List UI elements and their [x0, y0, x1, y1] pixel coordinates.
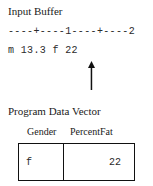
- input-buffer-heading: Input Buffer: [8, 5, 62, 18]
- up-arrow-icon: [86, 61, 97, 90]
- sas-input-buffer-diagram: Input Buffer ----+----1----+----2 m 13.3…: [0, 0, 153, 186]
- pdv-column-header-row: Gender PercentFat: [18, 125, 135, 140]
- input-buffer-content: m 13.3 f 22: [8, 45, 78, 57]
- program-data-vector-heading: Program Data Vector: [8, 105, 101, 118]
- input-buffer-column-ruler: ----+----1----+----2: [8, 26, 135, 38]
- program-data-vector-table: f 22: [18, 143, 135, 181]
- pdv-cell-gender: f: [19, 144, 64, 180]
- pdv-column-header-percentfat: PercentFat: [70, 125, 113, 138]
- pdv-column-header-gender: Gender: [27, 125, 56, 138]
- pdv-cell-percentfat: 22: [64, 144, 134, 180]
